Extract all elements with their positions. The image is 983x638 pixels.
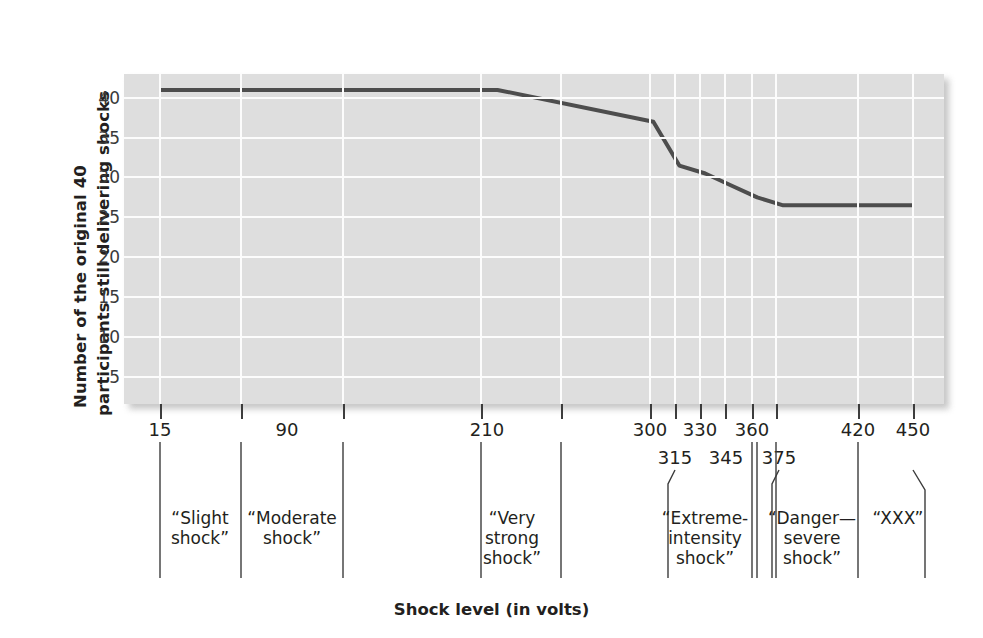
y-axis-tick-label: 25 (80, 207, 120, 227)
gridline-horizontal (124, 176, 944, 178)
gridline-horizontal (124, 296, 944, 298)
series-polyline (160, 90, 913, 205)
category-label-xxx: “XXX” (873, 508, 924, 528)
gridline-horizontal (124, 376, 944, 378)
gridline-vertical (159, 74, 161, 404)
gridline-vertical (649, 74, 651, 404)
gridline-vertical (775, 74, 777, 404)
y-axis-tick-label: 15 (80, 287, 120, 307)
data-series-line (124, 74, 944, 404)
category-label-very-strong-shock: “Very strong shock” (483, 508, 541, 568)
gridline-horizontal (124, 137, 944, 139)
gridline-horizontal (124, 336, 944, 338)
y-axis-tick-label: 10 (80, 327, 120, 347)
y-axis-tick-label: 20 (80, 247, 120, 267)
y-axis-tick-labels: 403530252015105 (80, 74, 120, 404)
gridline-horizontal (124, 216, 944, 218)
gridline-horizontal (124, 256, 944, 258)
y-axis-tick-label: 5 (80, 367, 120, 387)
category-label-slight-shock: “Slight shock” (171, 508, 229, 548)
gridline-vertical (699, 74, 701, 404)
gridline-vertical (560, 74, 562, 404)
plot-area (124, 74, 944, 404)
gridline-vertical (674, 74, 676, 404)
y-axis-tick-label: 35 (80, 128, 120, 148)
chart-figure: Number of the original 40 participants s… (0, 0, 983, 638)
gridline-vertical (751, 74, 753, 404)
y-axis-tick-label: 40 (80, 88, 120, 108)
y-axis-tick-label: 30 (80, 167, 120, 187)
category-label-moderate-shock: “Moderate shock” (247, 508, 337, 548)
gridline-horizontal (124, 97, 944, 99)
gridline-vertical (912, 74, 914, 404)
category-label-extreme-intensity-shock: “Extreme- intensity shock” (662, 508, 749, 568)
category-label-danger-severe-shock: “Danger— severe shock” (768, 508, 856, 568)
gridline-vertical (342, 74, 344, 404)
gridline-vertical (480, 74, 482, 404)
gridline-vertical (857, 74, 859, 404)
category-bracket-lines (0, 400, 983, 600)
gridline-vertical (724, 74, 726, 404)
gridline-vertical (240, 74, 242, 404)
x-axis-title: Shock level (in volts) (0, 600, 983, 619)
